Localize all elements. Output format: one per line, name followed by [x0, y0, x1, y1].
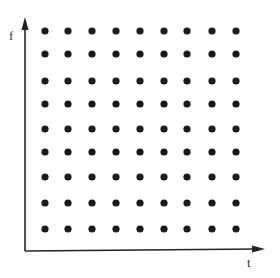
lattice-dot: [64, 148, 71, 155]
lattice-dot: [183, 173, 190, 180]
lattice-dot: [232, 125, 239, 132]
lattice-dot: [208, 125, 215, 132]
lattice-dot: [88, 173, 95, 180]
y-axis-arrow-icon: [22, 17, 29, 30]
plot-area: [0, 0, 280, 278]
time-frequency-lattice-diagram: f t: [0, 0, 280, 278]
lattice-dot: [64, 27, 71, 34]
lattice-dot: [208, 148, 215, 155]
lattice-dot: [160, 100, 167, 107]
lattice-dot: [112, 27, 119, 34]
lattice-dot: [136, 100, 143, 107]
lattice-dot: [232, 148, 239, 155]
lattice-dot: [112, 199, 119, 206]
lattice-dot: [112, 173, 119, 180]
lattice-dot: [208, 199, 215, 206]
lattice-dot: [41, 100, 48, 107]
lattice-dot: [160, 173, 167, 180]
lattice-dot: [136, 225, 143, 232]
lattice-dot: [208, 50, 215, 57]
lattice-dot: [41, 225, 48, 232]
lattice-dot: [64, 225, 71, 232]
lattice-dot: [183, 148, 190, 155]
lattice-dot: [64, 50, 71, 57]
lattice-dot: [136, 173, 143, 180]
lattice-dot: [160, 199, 167, 206]
lattice-dot: [232, 173, 239, 180]
lattice-dot: [64, 125, 71, 132]
lattice-dot: [112, 77, 119, 84]
lattice-dot: [41, 50, 48, 57]
lattice-dot: [183, 100, 190, 107]
lattice-dot: [183, 125, 190, 132]
lattice-dot: [160, 50, 167, 57]
lattice-dot: [160, 148, 167, 155]
lattice-dot: [64, 77, 71, 84]
lattice-dot: [232, 50, 239, 57]
lattice-dot: [136, 27, 143, 34]
lattice-dot: [112, 125, 119, 132]
lattice-dot: [232, 199, 239, 206]
lattice-dot: [112, 148, 119, 155]
lattice-dot: [41, 77, 48, 84]
lattice-dot: [88, 77, 95, 84]
lattice-dot: [232, 27, 239, 34]
lattice-dot: [136, 199, 143, 206]
lattice-dot: [88, 199, 95, 206]
lattice-dot: [41, 125, 48, 132]
lattice-dot: [88, 50, 95, 57]
lattice-dot: [112, 100, 119, 107]
lattice-dot: [160, 225, 167, 232]
lattice-dot: [208, 173, 215, 180]
lattice-dot: [160, 77, 167, 84]
lattice-dot: [183, 77, 190, 84]
lattice-dot: [232, 77, 239, 84]
x-axis-label: t: [247, 256, 251, 269]
lattice-dot: [64, 173, 71, 180]
lattice-dot: [208, 27, 215, 34]
lattice-dot: [208, 100, 215, 107]
lattice-dot: [64, 100, 71, 107]
lattice-dot: [88, 225, 95, 232]
lattice-dot: [208, 77, 215, 84]
lattice-dot: [41, 148, 48, 155]
lattice-dot: [183, 50, 190, 57]
lattice-dot: [64, 199, 71, 206]
lattice-dot: [232, 225, 239, 232]
lattice-dot: [183, 199, 190, 206]
lattice-dot: [88, 27, 95, 34]
lattice-dot: [232, 100, 239, 107]
y-axis-label: f: [9, 29, 13, 42]
lattice-dot: [41, 173, 48, 180]
lattice-dot: [160, 125, 167, 132]
lattice-dot: [112, 225, 119, 232]
lattice-dot: [136, 125, 143, 132]
lattice-dot: [41, 27, 48, 34]
lattice-dot: [136, 50, 143, 57]
lattice-dot: [88, 125, 95, 132]
lattice-dot: [183, 27, 190, 34]
lattice-dot: [183, 225, 190, 232]
x-axis: [25, 249, 258, 251]
lattice-dot: [136, 148, 143, 155]
lattice-dots: [41, 27, 239, 232]
x-axis-arrow-icon: [252, 246, 265, 253]
lattice-dot: [160, 27, 167, 34]
lattice-dot: [208, 225, 215, 232]
lattice-dot: [41, 199, 48, 206]
lattice-dot: [112, 50, 119, 57]
lattice-dot: [88, 100, 95, 107]
lattice-dot: [88, 148, 95, 155]
lattice-dot: [136, 77, 143, 84]
